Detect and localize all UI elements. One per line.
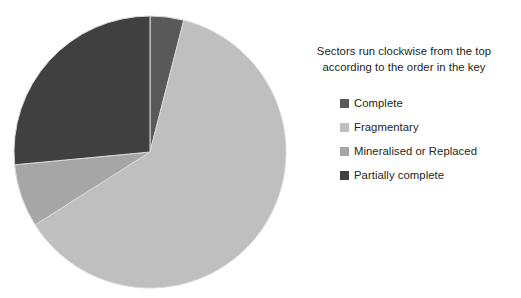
legend-swatch-icon-complete (340, 99, 349, 108)
legend-item-complete[interactable]: Complete (290, 91, 521, 115)
legend-note-line-1: Sectors run clockwise from the top (290, 44, 518, 60)
legend-items: Complete Fragmentary Mineralised or Repl… (290, 91, 521, 187)
legend-label-fragmentary: Fragmentary (354, 121, 419, 134)
legend-swatch-icon-fragmentary (340, 123, 349, 132)
legend-item-mineralised-or-replaced[interactable]: Mineralised or Replaced (290, 139, 521, 163)
legend-note: Sectors run clockwise from the top accor… (290, 44, 518, 75)
pie-slice-group (14, 16, 286, 288)
legend-swatch-icon-mineralised-or-replaced (340, 147, 349, 156)
legend-label-complete: Complete (354, 97, 403, 110)
pie-slice-partially-complete[interactable] (14, 16, 150, 165)
legend-swatch-icon-partially-complete (340, 171, 349, 180)
pie-plot-area (0, 0, 300, 298)
legend: Sectors run clockwise from the top accor… (290, 44, 521, 214)
legend-item-fragmentary[interactable]: Fragmentary (290, 115, 521, 139)
legend-label-mineralised-or-replaced: Mineralised or Replaced (354, 145, 477, 158)
legend-item-partially-complete[interactable]: Partially complete (290, 163, 521, 187)
legend-note-line-2: according to the order in the key (290, 60, 518, 76)
pie-svg (0, 0, 300, 298)
legend-label-partially-complete: Partially complete (354, 169, 444, 182)
pie-chart-figure: Sectors run clockwise from the top accor… (0, 0, 521, 298)
